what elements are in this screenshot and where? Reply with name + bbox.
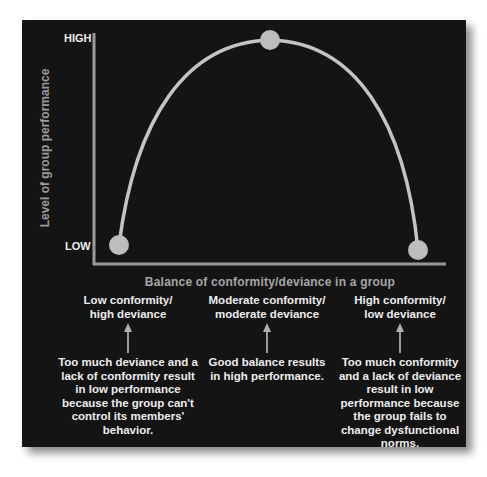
- moderate-conformity-point: [260, 30, 280, 50]
- arrow-up-icon: [396, 323, 404, 353]
- column-high-conformity: High conformity/ low deviance Too much c…: [338, 294, 462, 451]
- low-conformity-point: [109, 235, 129, 255]
- performance-curve: [119, 40, 418, 250]
- column-low-conformity: Low conformity/ high deviance Too much d…: [58, 294, 198, 437]
- y-axis-title: Level of group performance: [38, 69, 52, 228]
- y-axis-high-label: HIGH: [64, 32, 92, 44]
- column-heading-line1: Low conformity/: [58, 294, 198, 308]
- y-axis-low-label: LOW: [65, 240, 91, 252]
- column-moderate-conformity: Moderate conformity/ moderate deviance G…: [197, 294, 337, 383]
- column-heading-line2: high deviance: [58, 308, 198, 322]
- column-heading-line2: moderate deviance: [197, 308, 337, 322]
- high-conformity-point: [408, 240, 428, 260]
- x-axis-title: Balance of conformity/deviance in a grou…: [145, 275, 395, 289]
- column-description: Too much conformity and a lack of devian…: [338, 356, 462, 451]
- column-description: Good balance results in high performance…: [207, 356, 327, 383]
- column-heading-line1: Moderate conformity/: [197, 294, 337, 308]
- arrow-up-icon: [124, 323, 132, 353]
- column-heading-line1: High conformity/: [338, 294, 462, 308]
- column-description: Too much deviance and a lack of conformi…: [58, 356, 198, 437]
- arrow-up-icon: [263, 323, 271, 353]
- column-heading-line2: low deviance: [338, 308, 462, 322]
